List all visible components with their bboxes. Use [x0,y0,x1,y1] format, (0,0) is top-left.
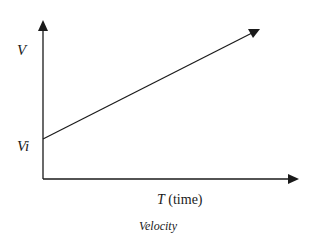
y-axis-arrowhead-icon [38,20,48,31]
x-axis-unit: (time) [168,192,202,207]
figure-caption: Velocity [139,220,177,232]
y-intercept-label: Vi [17,139,29,154]
velocity-line [43,33,252,139]
x-axis-arrowhead-icon [288,174,299,184]
x-axis-symbol: T [157,192,165,207]
velocity-graph [0,0,316,244]
y-axis-label: V [17,43,26,58]
x-axis-label: T (time) [157,193,203,207]
